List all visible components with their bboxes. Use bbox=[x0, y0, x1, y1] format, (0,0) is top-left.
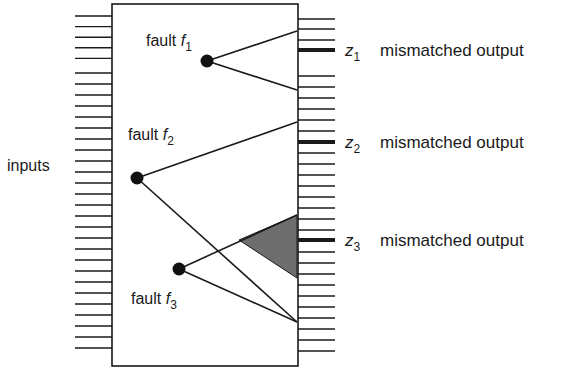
fault-site-f3 bbox=[173, 263, 186, 276]
output-label-z2: z2mismatched output bbox=[344, 133, 524, 156]
fault-label-f2: fault f2 bbox=[128, 126, 174, 148]
fault-site-f2 bbox=[131, 172, 144, 185]
output-lines bbox=[298, 19, 335, 351]
overlap-shaded-region bbox=[239, 215, 297, 278]
fault-cones bbox=[137, 31, 297, 322]
input-lines bbox=[75, 16, 112, 348]
fault-site-f1 bbox=[201, 55, 214, 68]
propagation-line-f1 bbox=[207, 61, 297, 90]
output-label-z1: z1mismatched output bbox=[344, 41, 524, 64]
inputs-label: inputs bbox=[7, 157, 50, 174]
propagation-line-f3 bbox=[179, 269, 297, 322]
fault-label-f1: fault f1 bbox=[146, 32, 192, 54]
propagation-line-f1 bbox=[207, 31, 297, 61]
fault-propagation-diagram: inputs fault f1fault f2fault f3 z1mismat… bbox=[0, 0, 564, 381]
output-label-z3: z3mismatched output bbox=[344, 231, 524, 254]
output-labels: z1mismatched outputz2mismatched outputz3… bbox=[344, 41, 524, 254]
fault-label-f3: fault f3 bbox=[131, 290, 177, 312]
